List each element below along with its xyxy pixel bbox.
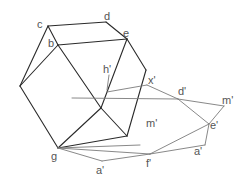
label-f-prime: f' xyxy=(146,157,151,169)
geometry-diagram: c d b e h' x' d' m' m' e' a' f' g a' xyxy=(0,0,243,188)
label-d: d xyxy=(104,10,110,22)
solid-edges xyxy=(20,22,146,148)
label-d-prime: d' xyxy=(178,85,186,97)
label-g: g xyxy=(51,150,57,162)
label-m-prime-right: m' xyxy=(222,94,233,106)
label-a-prime-right: a' xyxy=(194,145,202,157)
vertex-labels: c d b e h' x' d' m' m' e' a' f' g a' xyxy=(37,10,233,176)
label-c: c xyxy=(37,18,43,30)
label-b: b xyxy=(48,37,54,49)
label-a-prime-bottom: a' xyxy=(96,164,104,176)
label-m-prime-center: m' xyxy=(146,117,157,129)
label-e: e xyxy=(123,27,129,39)
label-e-prime: e' xyxy=(210,119,218,131)
label-h-prime: h' xyxy=(103,63,111,75)
label-x-prime: x' xyxy=(148,74,156,86)
